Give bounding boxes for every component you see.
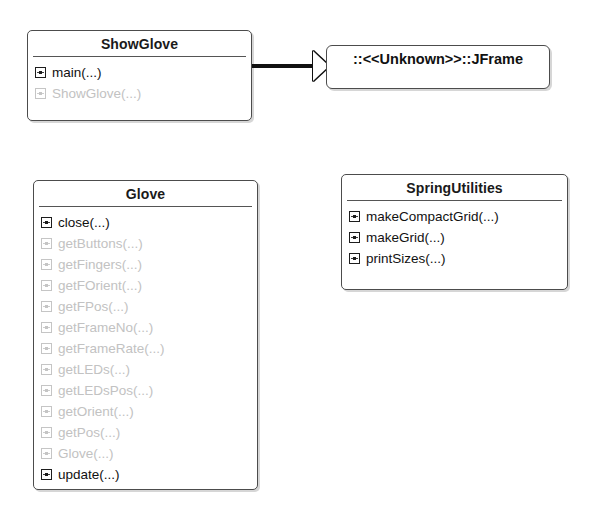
method-icon: [41, 469, 52, 480]
method-icon: [349, 232, 360, 243]
method-icon: [41, 259, 52, 270]
method-icon: [41, 385, 52, 396]
class-member-label: main(...): [52, 62, 102, 83]
class-member-label: getLEDsPos(...): [58, 380, 153, 401]
class-member[interactable]: ShowGlove(...): [28, 83, 251, 104]
class-member[interactable]: getButtons(...): [34, 233, 257, 254]
class-members-showglove: main(...) ShowGlove(...): [28, 57, 251, 109]
method-icon: [41, 217, 52, 228]
class-member-label: getButtons(...): [58, 233, 143, 254]
class-member-label: makeGrid(...): [366, 227, 445, 248]
class-members-glove: close(...) getButtons(...) getFingers(..…: [34, 207, 257, 490]
class-member[interactable]: makeCompactGrid(...): [342, 206, 567, 227]
class-member-label: getPos(...): [58, 422, 120, 443]
class-member[interactable]: getOrient(...): [34, 401, 257, 422]
class-member-label: getFingers(...): [58, 254, 142, 275]
class-box-jframe[interactable]: ::<<Unknown>>::JFrame: [326, 45, 550, 89]
class-member-label: Glove(...): [58, 443, 114, 464]
class-member-label: getOrient(...): [58, 401, 134, 422]
class-box-springutilities[interactable]: SpringUtilities makeCompactGrid(...) mak…: [341, 174, 568, 290]
diagram-canvas: ShowGlove main(...) ShowGlove(...) ::<<U…: [0, 0, 599, 520]
method-icon: [41, 322, 52, 333]
class-member[interactable]: getFPos(...): [34, 296, 257, 317]
class-member-label: getFPos(...): [58, 296, 129, 317]
class-member-label: getFrameNo(...): [58, 317, 153, 338]
class-member-label: getFOrient(...): [58, 275, 142, 296]
method-icon: [41, 343, 52, 354]
method-icon: [35, 88, 46, 99]
class-member[interactable]: getFOrient(...): [34, 275, 257, 296]
method-icon: [41, 406, 52, 417]
class-member-label: update(...): [58, 464, 120, 485]
method-icon: [41, 427, 52, 438]
class-box-glove[interactable]: Glove close(...) getButtons(...) getFing…: [33, 180, 258, 490]
class-member[interactable]: getLEDsPos(...): [34, 380, 257, 401]
generalization-line: [252, 64, 314, 68]
class-member-label: ShowGlove(...): [52, 83, 141, 104]
method-icon: [35, 67, 46, 78]
class-name-glove: Glove: [34, 181, 257, 206]
class-member[interactable]: close(...): [34, 212, 257, 233]
method-icon: [41, 301, 52, 312]
method-icon: [349, 211, 360, 222]
class-member-label: getLEDs(...): [58, 359, 130, 380]
class-member-label: printSizes(...): [366, 248, 446, 269]
class-member[interactable]: makeGrid(...): [342, 227, 567, 248]
class-name-springutilities: SpringUtilities: [342, 175, 567, 200]
method-icon: [349, 253, 360, 264]
class-member[interactable]: Glove(...): [34, 443, 257, 464]
method-icon: [41, 364, 52, 375]
method-icon: [41, 448, 52, 459]
class-member-label: getFrameRate(...): [58, 338, 165, 359]
class-member[interactable]: getLEDs(...): [34, 359, 257, 380]
method-icon: [41, 238, 52, 249]
class-member[interactable]: getFingers(...): [34, 254, 257, 275]
class-member-label: close(...): [58, 212, 110, 233]
class-member[interactable]: getFrameRate(...): [34, 338, 257, 359]
class-member[interactable]: getPos(...): [34, 422, 257, 443]
class-member[interactable]: getFrameNo(...): [34, 317, 257, 338]
method-icon: [41, 280, 52, 291]
class-box-showglove[interactable]: ShowGlove main(...) ShowGlove(...): [27, 30, 252, 121]
class-name-showglove: ShowGlove: [28, 31, 251, 56]
class-members-springutilities: makeCompactGrid(...) makeGrid(...) print…: [342, 201, 567, 274]
class-name-jframe: ::<<Unknown>>::JFrame: [353, 46, 523, 67]
class-member[interactable]: update(...): [34, 464, 257, 485]
class-member[interactable]: main(...): [28, 62, 251, 83]
class-member-label: makeCompactGrid(...): [366, 206, 499, 227]
class-member[interactable]: printSizes(...): [342, 248, 567, 269]
